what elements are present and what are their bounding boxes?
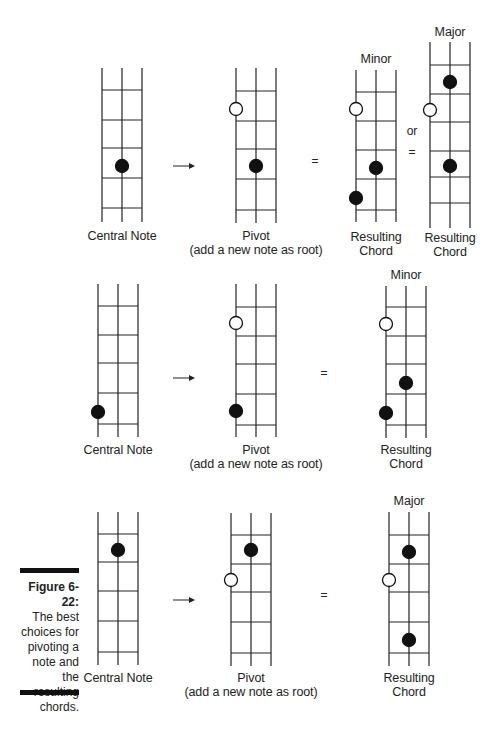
caption-bottom-rule [20,690,79,695]
fretboard-r3-major [383,512,430,666]
equals-sign: = [320,588,327,602]
filled-note-dot [245,544,258,557]
diagram-label: Central Note [84,443,153,457]
diagram-label: ResultingChord [383,671,434,699]
diagram-label: ResultingChord [380,443,431,471]
caption-line: choices for [20,625,79,640]
diagram-label-line: (add a new note as root) [184,685,317,699]
fretboard-r1-central [102,68,142,222]
diagram-label-line: Central Note [84,443,153,457]
filled-note-dot [116,160,129,173]
diagram-label: Central Note [88,229,157,243]
diagram-label-line: Resulting [380,443,431,457]
fretboard-r3-central [98,512,138,665]
diagram-label-line: (add a new note as root) [189,243,322,257]
open-root-dot [225,574,238,587]
caption-line: pivoting a [20,640,79,655]
filled-note-dot [350,192,363,205]
diagram-label: ResultingChord [350,230,401,258]
chord-pivot-figure: Central NotePivot(add a new note as root… [0,0,502,738]
open-root-dot [230,317,243,330]
arrowhead-icon [189,597,195,603]
diagram-label-line: Central Note [84,671,153,685]
fretboard-r1-major [424,42,471,228]
filled-note-dot [112,544,125,557]
diagram-label-line: Chord [350,244,401,258]
filled-note-dot [380,407,393,420]
filled-note-dot [250,160,263,173]
diagram-label: ResultingChord [424,231,475,259]
diagram-label-line: Pivot [189,229,322,243]
diagram-label-line: Resulting [424,231,475,245]
or-label: or [407,124,418,138]
caption-line: note and [20,655,79,670]
fretboard-r2-central [92,284,139,437]
diagram-label-line: Chord [383,685,434,699]
fretboard-r2-pivot [230,284,277,437]
arrowhead-icon [189,375,195,381]
equals-sign: = [408,145,415,159]
filled-note-dot [403,546,416,559]
caption-line: chords. [20,700,79,715]
filled-note-dot [444,160,457,173]
fretboard-r1-minor [350,70,397,222]
open-root-dot [383,574,396,587]
open-root-dot [230,103,243,116]
caption-line: The best [20,610,79,625]
chord-quality-title: Major [394,494,425,508]
diagram-label-line: (add a new note as root) [189,457,322,471]
filled-note-dot [403,634,416,647]
diagram-label: Central Note [84,671,153,685]
caption-top-rule [20,568,79,573]
diagram-label: Pivot(add a new note as root) [184,671,317,699]
filled-note-dot [444,76,457,89]
fretboard-r2-minor [380,286,427,438]
diagram-label: Pivot(add a new note as root) [189,229,322,257]
filled-note-dot [370,162,383,175]
caption-line: the resulting [20,670,79,700]
diagram-label-line: Resulting [350,230,401,244]
diagram-label-line: Pivot [189,443,322,457]
open-root-dot [350,103,363,116]
caption-title: Figure 6-22: [28,580,79,609]
diagram-label: Pivot(add a new note as root) [189,443,322,471]
diagram-label-line: Central Note [88,229,157,243]
diagram-label-line: Chord [380,457,431,471]
open-root-dot [424,104,437,117]
arrowhead-icon [189,163,195,169]
equals-sign: = [311,154,318,168]
diagram-label-line: Resulting [383,671,434,685]
chord-quality-title: Minor [391,268,422,282]
filled-note-dot [92,406,105,419]
chord-quality-title: Minor [361,52,392,66]
fretboard-r3-pivot [225,513,272,666]
fretboard-r1-pivot [230,68,277,223]
equals-sign: = [320,366,327,380]
chord-quality-title: Major [435,25,466,39]
filled-note-dot [230,405,243,418]
filled-note-dot [400,377,413,390]
diagram-label-line: Chord [424,245,475,259]
open-root-dot [380,318,393,331]
diagram-label-line: Pivot [184,671,317,685]
